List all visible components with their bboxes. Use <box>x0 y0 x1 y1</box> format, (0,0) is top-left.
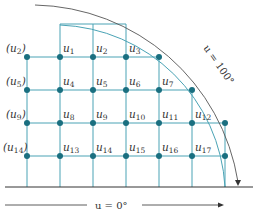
svg-text:(u2): (u2) <box>6 42 26 56</box>
svg-text:u8: u8 <box>63 108 75 122</box>
outer-arc <box>35 5 238 182</box>
svg-text:u2: u2 <box>96 42 108 56</box>
svg-text:u4: u4 <box>63 75 75 89</box>
bottom-boundary-label: u = 0° <box>95 200 128 211</box>
svg-text:u6: u6 <box>129 75 141 89</box>
svg-text:(u9): (u9) <box>6 108 26 122</box>
grid-lines <box>27 24 225 187</box>
svg-text:u13: u13 <box>63 141 80 155</box>
svg-text:u7: u7 <box>162 75 174 89</box>
node-labels: u1 u2 u3 u4 u5 u6 u7 u8 u9 u10 u11 u12 u… <box>63 42 212 155</box>
diagram-canvas: (u2) (u5) (u9) (u14) u1 u2 u3 u4 u5 u6 u… <box>0 0 253 215</box>
svg-text:u15: u15 <box>129 141 146 155</box>
svg-text:u5: u5 <box>96 75 108 89</box>
svg-text:u9: u9 <box>96 108 108 122</box>
svg-text:u1: u1 <box>63 42 75 56</box>
svg-text:u11: u11 <box>162 108 178 122</box>
svg-text:(u14): (u14) <box>3 141 28 155</box>
left-labels: (u2) (u5) (u9) (u14) <box>3 42 28 155</box>
bottom-arrow-icon <box>218 203 224 208</box>
heat-grid-diagram: (u2) (u5) (u9) (u14) u1 u2 u3 u4 u5 u6 u… <box>0 0 253 215</box>
top-boundary-label: u = 100° <box>201 43 236 86</box>
svg-text:u12: u12 <box>195 108 212 122</box>
svg-text:u3: u3 <box>129 42 141 56</box>
svg-text:(u5): (u5) <box>6 75 26 89</box>
svg-text:u14: u14 <box>96 141 113 155</box>
svg-text:u17: u17 <box>195 141 212 155</box>
svg-text:u10: u10 <box>129 108 146 122</box>
arc-arrow-icon <box>235 180 241 186</box>
svg-text:u16: u16 <box>162 141 179 155</box>
